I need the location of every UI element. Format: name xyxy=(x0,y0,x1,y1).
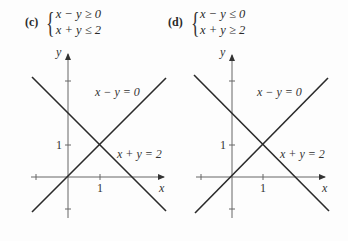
x-axis-label: x xyxy=(321,181,328,195)
graph-c: y x 1 1 x − y = 0 x + y = 2 xyxy=(31,45,166,218)
line1-label: x − y = 0 xyxy=(256,85,302,99)
line2-label: x + y = 2 xyxy=(116,147,162,161)
y-tick-label: 1 xyxy=(56,138,62,152)
y-axis-label: y xyxy=(219,45,226,59)
line1-label: x − y = 0 xyxy=(94,85,140,99)
graphs: y x 1 1 x − y = 0 x + y = 2 y x 1 1 x − … xyxy=(0,0,348,241)
y-axis-label: y xyxy=(55,45,62,59)
line2-label: x + y = 2 xyxy=(279,147,325,161)
graph-d: y x 1 1 x − y = 0 x + y = 2 xyxy=(194,45,329,218)
x-tick-label: 1 xyxy=(260,181,266,195)
x-tick-label: 1 xyxy=(97,181,103,195)
y-tick-label: 1 xyxy=(220,138,226,152)
x-axis-label: x xyxy=(158,181,165,195)
